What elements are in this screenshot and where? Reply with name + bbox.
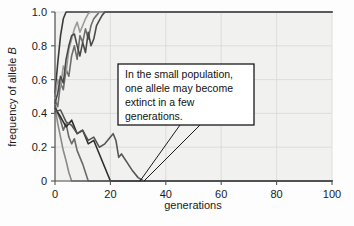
callout-line-2: one allele may become (125, 82, 233, 94)
y-tick-label: 0 (41, 175, 47, 187)
genetic-drift-figure: 00.20.40.60.81.0 020406080100 generation… (0, 0, 354, 226)
y-tick-label: 0.6 (32, 74, 47, 86)
x-tick-label: 20 (104, 188, 116, 200)
drift-chart: 00.20.40.60.81.0 020406080100 generation… (0, 0, 354, 226)
callout-line-4: generations. (125, 110, 183, 122)
x-tick-label: 0 (52, 188, 58, 200)
y-tick-label: 0.4 (32, 107, 47, 119)
y-tick-label: 0.8 (32, 40, 47, 52)
y-tick-labels: 00.20.40.60.81.0 (32, 6, 47, 187)
x-axis-title: generations (164, 199, 222, 211)
callout-line-3: extinct in a few (125, 96, 195, 108)
y-tick-label: 1.0 (32, 6, 47, 18)
callout-line-1: In the small population, (125, 68, 233, 80)
x-tick-label: 80 (270, 188, 282, 200)
y-axis-title: frequency of allele B (6, 47, 18, 147)
y-tick-label: 0.2 (32, 141, 47, 153)
x-tick-label: 100 (323, 188, 341, 200)
